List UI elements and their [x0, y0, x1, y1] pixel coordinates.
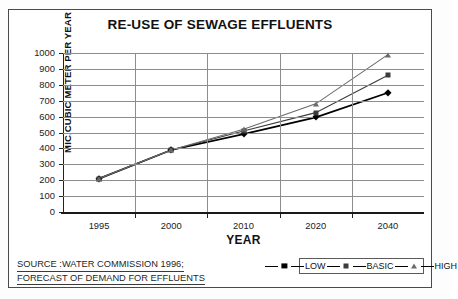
x-tick-label: 2010: [209, 220, 279, 231]
y-tick-label: 400: [21, 142, 55, 153]
legend-label: HIGH: [434, 261, 458, 271]
y-tick-label: 1000: [21, 47, 55, 58]
triangle-marker-icon: [408, 262, 421, 271]
triangle-marker-icon-glyph: [411, 264, 417, 269]
legend-label: BASIC: [366, 261, 395, 271]
x-axis-line: [61, 212, 424, 214]
legend-item-basic[interactable]: BASIC: [327, 261, 395, 271]
diamond-marker-icon: [278, 262, 291, 271]
legend-line-left: [395, 266, 408, 267]
triangle-marker-icon: [168, 147, 174, 152]
square-marker-icon: [313, 110, 318, 115]
square-marker-icon-glyph: [344, 264, 349, 269]
gridline-horizontal: [63, 101, 424, 102]
gridline-horizontal: [63, 117, 424, 118]
y-tick-label: 300: [21, 158, 55, 169]
gridline-vertical: [280, 53, 281, 212]
y-tick-label: 800: [21, 79, 55, 90]
x-tick-label: 2020: [281, 220, 351, 231]
y-tick: [59, 148, 63, 149]
x-tick-label: 1995: [64, 220, 134, 231]
source-note: SOURCE :WATER COMMISSION 1996; FORECAST …: [17, 258, 205, 285]
y-tick-label: 900: [21, 63, 55, 74]
gridline-horizontal: [63, 53, 424, 54]
legend-line-right: [291, 266, 304, 267]
plot-area: MIC.CUBIC METER PER YEAR: [63, 53, 424, 212]
y-tick: [59, 133, 63, 134]
gridline-vertical: [135, 53, 136, 212]
legend-item-high[interactable]: HIGH: [395, 261, 458, 271]
gridline-horizontal: [63, 196, 424, 197]
x-axis-title: YEAR: [63, 233, 424, 247]
legend-item-low[interactable]: LOW: [265, 261, 327, 271]
triangle-marker-icon: [241, 127, 247, 132]
gridline-horizontal: [63, 85, 424, 86]
y-tick: [59, 117, 63, 118]
y-tick: [59, 69, 63, 70]
x-tick-label: 2000: [136, 220, 206, 231]
legend-label: LOW: [304, 261, 327, 271]
gridline-horizontal: [63, 148, 424, 149]
legend-line-right: [421, 266, 434, 267]
y-tick: [59, 164, 63, 165]
legend-line-left: [265, 266, 278, 267]
y-tick-label: 700: [21, 95, 55, 106]
source-line-1: SOURCE :WATER COMMISSION 1996;: [17, 258, 184, 272]
y-tick-label: 500: [21, 127, 55, 138]
triangle-marker-icon: [96, 176, 102, 181]
chart-legend[interactable]: LOWBASICHIGH: [299, 258, 424, 274]
triangle-marker-icon: [385, 52, 391, 57]
gridline-vertical: [352, 53, 353, 212]
y-tick: [59, 101, 63, 102]
y-tick-label: 600: [21, 111, 55, 122]
square-marker-icon: [340, 262, 353, 271]
square-marker-icon: [385, 73, 390, 78]
y-tick: [59, 53, 63, 54]
gridline-horizontal: [63, 180, 424, 181]
gridline-vertical: [207, 53, 208, 212]
gridline-horizontal: [63, 69, 424, 70]
legend-line-left: [327, 266, 340, 267]
diamond-marker-icon-glyph: [282, 263, 287, 268]
y-tick: [59, 180, 63, 181]
triangle-marker-icon: [313, 101, 319, 106]
source-line-2: FORECAST OF DEMAND FOR EFFLUENTS: [17, 272, 205, 286]
y-tick: [59, 196, 63, 197]
gridline-horizontal: [63, 164, 424, 165]
y-tick-label: 100: [21, 190, 55, 201]
legend-line-right: [353, 266, 366, 267]
y-tick: [59, 85, 63, 86]
y-tick-label: 200: [21, 174, 55, 185]
x-tick-label: 2040: [353, 220, 423, 231]
y-tick-label: 0: [21, 206, 55, 217]
